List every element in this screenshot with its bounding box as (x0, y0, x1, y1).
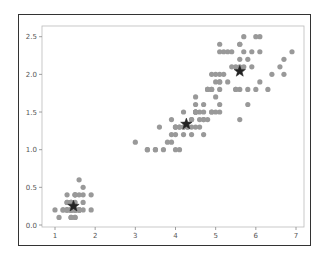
data-point (281, 57, 286, 62)
data-point (173, 132, 178, 137)
data-point (257, 49, 262, 54)
y-tick-label: 1.5 (26, 109, 37, 117)
data-point (221, 49, 226, 54)
data-point (72, 192, 77, 197)
x-tick-label: 1 (53, 232, 57, 240)
data-point (177, 147, 182, 152)
y-tick-label: 2.0 (26, 71, 37, 79)
data-point (177, 124, 182, 129)
x-tick-label: 5 (213, 232, 217, 240)
data-point (201, 132, 206, 137)
data-point (233, 87, 238, 92)
data-point (229, 49, 234, 54)
data-point (289, 49, 294, 54)
y-tick-label: 0.5 (26, 184, 37, 192)
data-point (249, 49, 254, 54)
data-point (217, 109, 222, 114)
data-point (201, 102, 206, 107)
data-point (77, 177, 82, 182)
data-point (56, 215, 61, 220)
data-point (81, 200, 86, 205)
data-point (145, 147, 150, 152)
data-point (52, 207, 57, 212)
data-point (217, 87, 222, 92)
data-point (153, 147, 158, 152)
data-point (217, 42, 222, 47)
data-point (197, 124, 202, 129)
scatter-chart: 1234567 0.00.51.01.52.02.5 (0, 0, 325, 258)
data-point (193, 94, 198, 99)
data-point (68, 215, 73, 220)
data-point (217, 102, 222, 107)
x-axis: 1234567 (53, 227, 298, 240)
y-axis: 0.00.51.01.52.02.5 (26, 33, 42, 229)
data-point (281, 72, 286, 77)
data-point (245, 102, 250, 107)
data-point (165, 140, 170, 145)
data-point (181, 109, 186, 114)
data-point (241, 49, 246, 54)
data-point (237, 42, 242, 47)
data-point (197, 117, 202, 122)
data-point (225, 79, 230, 84)
data-point (89, 207, 94, 212)
data-point (265, 87, 270, 92)
data-point (237, 57, 242, 62)
data-point (221, 72, 226, 77)
data-point (205, 117, 210, 122)
data-point (189, 132, 194, 137)
x-tick-label: 4 (173, 232, 178, 240)
data-point (277, 64, 282, 69)
data-point (269, 72, 274, 77)
x-tick-label: 2 (93, 232, 97, 240)
data-point (133, 140, 138, 145)
data-point (257, 79, 262, 84)
data-point (161, 147, 166, 152)
data-point (213, 79, 218, 84)
data-point (257, 34, 262, 39)
data-point (169, 117, 174, 122)
data-point (89, 192, 94, 197)
data-point (245, 57, 250, 62)
data-point (189, 117, 194, 122)
data-point (205, 87, 210, 92)
data-point (213, 94, 218, 99)
data-point (245, 87, 250, 92)
data-point (241, 34, 246, 39)
data-point (193, 109, 198, 114)
data-point (249, 64, 254, 69)
x-tick-label: 3 (133, 232, 137, 240)
y-tick-label: 1.0 (26, 146, 37, 154)
data-point (201, 109, 206, 114)
data-point (253, 87, 258, 92)
data-point (209, 72, 214, 77)
data-point (81, 185, 86, 190)
y-tick-label: 0.0 (26, 222, 37, 230)
data-point (193, 102, 198, 107)
data-point (237, 117, 242, 122)
x-tick-label: 6 (254, 232, 259, 240)
data-point (229, 64, 234, 69)
y-tick-label: 2.5 (26, 33, 37, 41)
data-point (181, 132, 186, 137)
data-point (157, 124, 162, 129)
x-tick-label: 7 (294, 232, 298, 240)
data-point (64, 192, 69, 197)
